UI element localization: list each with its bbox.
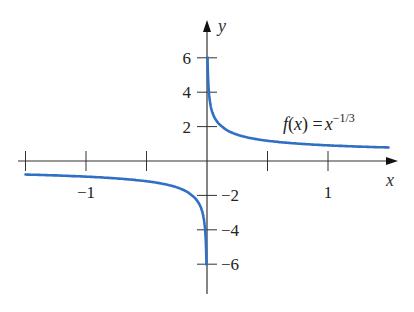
y-tick-label: −4 [221, 221, 240, 240]
x-axis-arrow-icon [386, 157, 398, 165]
y-tick-label: −6 [221, 255, 239, 274]
y-axis-label: y [216, 16, 226, 36]
y-tick-label: 6 [183, 49, 192, 68]
y-tick-label: 2 [183, 118, 192, 137]
x-tick-label: −1 [77, 183, 95, 202]
y-tick-label: 4 [183, 83, 192, 102]
exponent: −1/3 [333, 111, 355, 125]
x-tick-label: 1 [324, 183, 333, 202]
function-plot: −11642−2−4−6 x y f(x) =x−1/3 [0, 0, 414, 312]
function-label: f(x) =x−1/3 [283, 111, 355, 135]
curve-positive-branch [208, 58, 389, 148]
y-axis-arrow-icon [203, 20, 211, 32]
x-axis-label: x [385, 170, 394, 190]
y-tick-label: −2 [221, 186, 239, 205]
curve-negative-branch [26, 175, 207, 265]
